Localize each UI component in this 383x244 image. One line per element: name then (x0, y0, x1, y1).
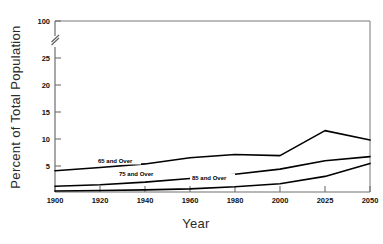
x-tick-label-1900: 1900 (47, 196, 64, 205)
x-tick-label-1980: 1980 (227, 196, 244, 205)
x-tick-label-2050: 2050 (362, 196, 379, 205)
plot-background (55, 21, 370, 192)
x-tick-label-2025: 2025 (317, 196, 334, 205)
series-label-65-and-over: 65 and Over (96, 157, 141, 165)
x-tick-label-1940: 1940 (137, 196, 154, 205)
y-axis-title: Percent of Total Population (8, 25, 23, 188)
series-label-text-65: 65 and Over (98, 158, 133, 164)
series-label-75-and-over: 75 and Over (117, 170, 162, 178)
x-tick-label-1960: 1960 (182, 196, 199, 205)
chart-figure: 100 25 20 15 10 5 1900 1920 1940 1960 19… (0, 0, 383, 244)
y-tick-label-25: 25 (42, 54, 50, 63)
y-tick-label-100: 100 (37, 17, 50, 26)
x-tick-label-2000: 2000 (272, 196, 289, 205)
series-label-text-75: 75 and Over (119, 171, 154, 177)
y-tick-label-20: 20 (42, 81, 50, 90)
series-label-85-and-over: 85 and Over (190, 174, 235, 182)
y-tick-label-10: 10 (42, 135, 50, 144)
y-tick-label-15: 15 (42, 108, 50, 117)
series-label-text-85: 85 and Over (192, 175, 227, 181)
y-axis-break-icon (52, 35, 60, 47)
y-tick-label-5: 5 (46, 162, 50, 171)
x-axis-title: Year (182, 216, 210, 231)
population-aging-line-chart: 100 25 20 15 10 5 1900 1920 1940 1960 19… (0, 0, 383, 244)
x-tick-label-1920: 1920 (92, 196, 109, 205)
